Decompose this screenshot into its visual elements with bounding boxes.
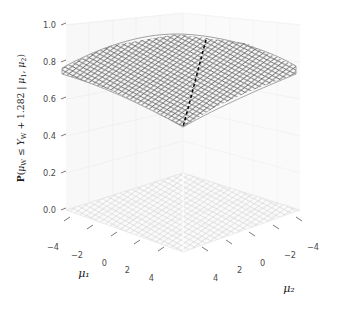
y-tick-label-0: 4 [213,273,218,283]
y-axis-label-text: μ₂ [283,282,295,295]
x-tick-label-0: −4 [47,242,59,252]
z-tick-label-1: 0.2 [43,168,56,178]
x-tick-label-1: −2 [71,250,83,260]
x-axis-label-text: μ₁ [78,267,90,280]
y-tick-label-2: 0 [260,258,265,268]
zlabel-close: ) [15,54,26,58]
z-tick-label-2: 0.4 [43,131,56,141]
y-tick-label-1: 2 [237,265,242,275]
z-tick-label-5: 1.0 [43,20,56,30]
zlabel-le: ≤ [15,145,26,159]
labels-layer: 0.0 0.2 0.4 0.6 0.8 1.0 −4 −2 0 2 4 −4 −… [0,0,345,313]
z-tick-label-3: 0.6 [43,94,56,104]
plot-area-3d: 0.0 0.2 0.4 0.6 0.8 1.0 −4 −2 0 2 4 −4 −… [0,0,345,313]
y-tick-label-4: −4 [307,242,319,252]
z-tick-label-0: 0.0 [43,205,56,215]
z-tick-label-4: 0.8 [43,57,56,67]
x-tick-label-3: 2 [125,265,130,275]
svg-text:μ₂: μ₂ [283,282,295,295]
z-axis-label: P(μW ≤ YW + 1.282 | μ1, μ2) [15,54,28,182]
figure-canvas: 0.0 0.2 0.4 0.6 0.8 1.0 −4 −2 0 2 4 −4 −… [0,0,345,313]
svg-text:P(μW ≤ YW + 1.282 | μ1, μ2): P(μW ≤ YW + 1.282 | μ1, μ2) [15,54,28,182]
x-tick-label-2: 0 [102,258,107,268]
x-axis-label: μ₁ [78,267,90,280]
x-tick-label-4: 4 [149,273,154,283]
zlabel-plus: + 1.282 | [15,84,27,133]
y-tick-label-3: −2 [284,250,296,260]
svg-text:μ₁: μ₁ [78,267,90,280]
y-axis-label: μ₂ [283,282,295,295]
